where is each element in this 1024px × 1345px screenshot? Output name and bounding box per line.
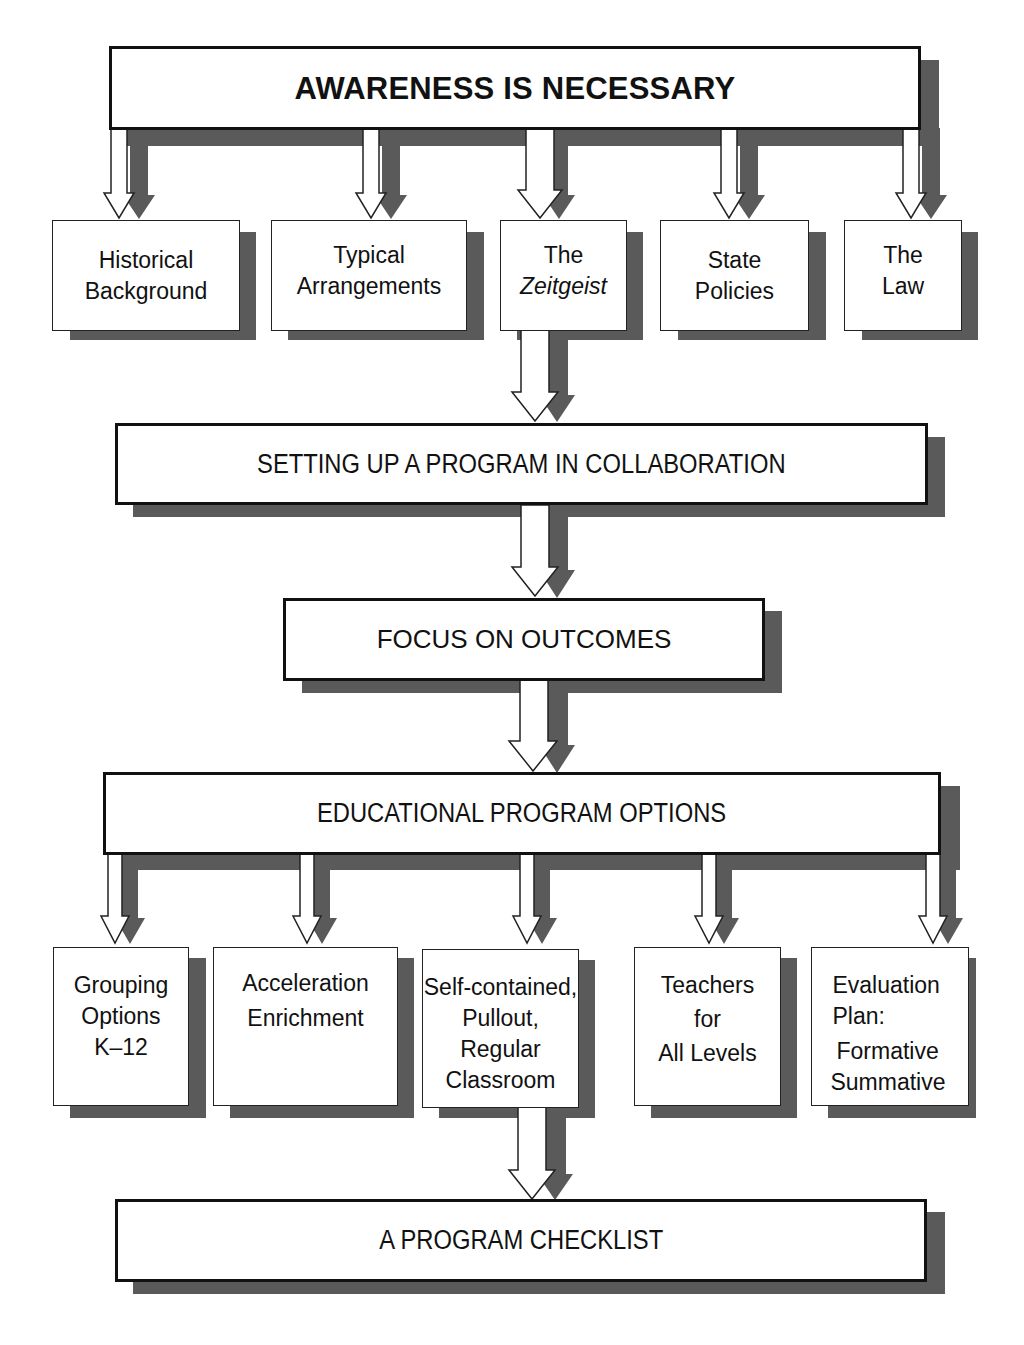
teachers-line1: Teachers bbox=[661, 970, 754, 1001]
selfcontained-line3: Regular bbox=[460, 1034, 541, 1065]
acceleration-line1: Acceleration bbox=[242, 968, 369, 999]
evaluation-line2: Plan: bbox=[832, 1001, 884, 1032]
box-program-checklist: A PROGRAM CHECKLIST bbox=[115, 1199, 927, 1282]
grouping-line3: K–12 bbox=[94, 1032, 148, 1063]
typical-line1: Typical bbox=[333, 240, 405, 271]
box-historical-background: Historical Background bbox=[52, 220, 240, 331]
box-setting-up-program: SETTING UP A PROGRAM IN COLLABORATION bbox=[115, 423, 928, 505]
checklist-title: A PROGRAM CHECKLIST bbox=[379, 1225, 663, 1256]
selfcontained-line4: Classroom bbox=[446, 1065, 556, 1096]
box-self-contained: Self-contained, Pullout, Regular Classro… bbox=[422, 949, 579, 1108]
typical-line2: Arrangements bbox=[297, 271, 441, 302]
box-focus-on-outcomes: FOCUS ON OUTCOMES bbox=[283, 598, 765, 681]
acceleration-line2: Enrichment bbox=[247, 1003, 363, 1034]
box-state-policies: State Policies bbox=[660, 220, 809, 331]
awareness-title: AWARENESS IS NECESSARY bbox=[295, 73, 736, 104]
grouping-line1: Grouping bbox=[74, 970, 169, 1001]
teachers-line3: All Levels bbox=[658, 1038, 756, 1069]
evaluation-line3: Formative bbox=[836, 1036, 938, 1067]
law-line2: Law bbox=[882, 271, 924, 302]
law-line1: The bbox=[883, 240, 923, 271]
selfcontained-line2: Pullout, bbox=[462, 1003, 539, 1034]
evaluation-line1: Evaluation bbox=[832, 970, 939, 1001]
box-grouping-options: Grouping Options K–12 bbox=[53, 947, 189, 1106]
evaluation-line4: Summative bbox=[830, 1067, 945, 1098]
box-awareness-is-necessary: AWARENESS IS NECESSARY bbox=[109, 46, 921, 130]
setup-title: SETTING UP A PROGRAM IN COLLABORATION bbox=[257, 449, 786, 480]
historical-line2: Background bbox=[85, 276, 208, 307]
box-the-law: The Law bbox=[844, 220, 962, 331]
zeitgeist-line2: Zeitgeist bbox=[520, 271, 607, 302]
grouping-line2: Options bbox=[81, 1001, 160, 1032]
focus-title: FOCUS ON OUTCOMES bbox=[377, 624, 672, 655]
box-evaluation-plan: Evaluation Plan: Formative Summative bbox=[811, 947, 969, 1106]
box-educational-program-options: EDUCATIONAL PROGRAM OPTIONS bbox=[103, 772, 941, 855]
box-teachers-all-levels: Teachers for All Levels bbox=[634, 947, 781, 1106]
options-title: EDUCATIONAL PROGRAM OPTIONS bbox=[317, 798, 726, 829]
historical-line1: Historical bbox=[99, 245, 194, 276]
state-line1: State bbox=[708, 245, 762, 276]
zeitgeist-line1: The bbox=[544, 240, 584, 271]
selfcontained-line1: Self-contained, bbox=[424, 972, 577, 1003]
teachers-line2: for bbox=[694, 1004, 721, 1035]
box-the-zeitgeist: The Zeitgeist bbox=[500, 220, 627, 331]
state-line2: Policies bbox=[695, 276, 774, 307]
box-acceleration-enrichment: Acceleration Enrichment bbox=[213, 947, 398, 1106]
box-typical-arrangements: Typical Arrangements bbox=[271, 220, 467, 331]
